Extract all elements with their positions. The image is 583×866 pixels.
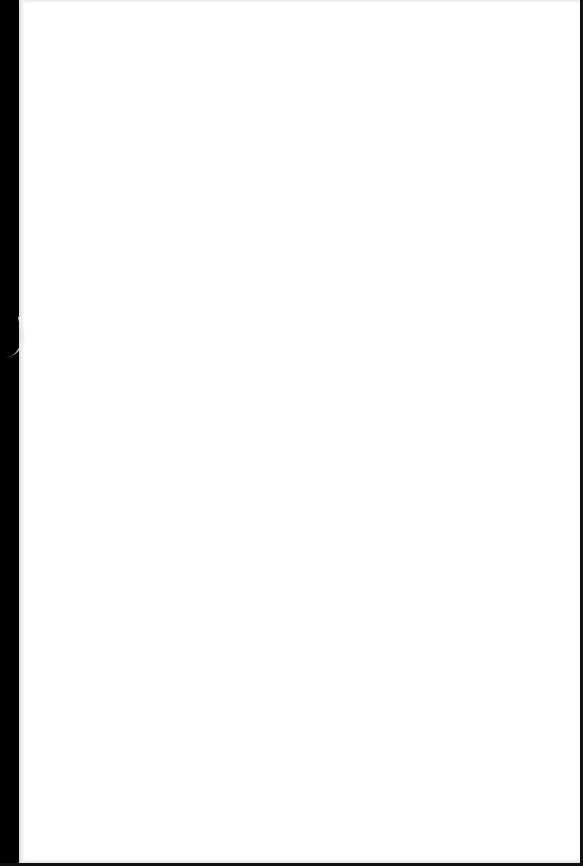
- sheet-left-edge: [19, 0, 25, 863]
- scanned-document: [0, 0, 583, 866]
- page-content: [59, 40, 540, 823]
- sheet-top-shadow: [19, 0, 580, 3]
- blank-paper-sheet: [19, 0, 580, 863]
